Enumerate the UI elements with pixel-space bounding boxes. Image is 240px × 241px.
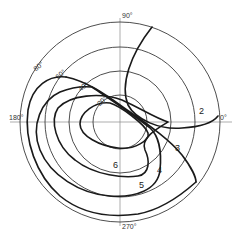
contour-6 (80, 103, 148, 148)
azimuth-label-90: 90° (122, 12, 133, 19)
contour-label-6: 6 (113, 160, 118, 170)
contour-2 (125, 27, 218, 128)
contour-label-2: 2 (199, 106, 204, 116)
ring-label-60: 60° (54, 68, 67, 80)
contour-label-3: 3 (175, 143, 180, 153)
contour-label-4: 4 (157, 165, 162, 175)
azimuth-label-0: 0° (220, 114, 227, 121)
ring-label-80: 80° (32, 60, 45, 72)
contour-label-5: 5 (139, 180, 144, 190)
azimuth-label-270: 270° (122, 223, 137, 230)
azimuth-label-180: 180° (9, 114, 24, 121)
polar-contour-diagram: 90° 0° 180° 270° 80° 60° 40° 20° 2 3 4 5… (0, 0, 240, 241)
